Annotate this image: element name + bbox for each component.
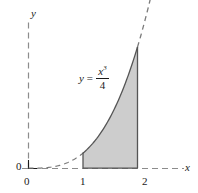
plot-canvas (0, 0, 198, 193)
equation-numerator-exponent: 3 (103, 64, 107, 72)
x-tick-label-1: 1 (80, 176, 86, 187)
equation-equals-sign: = (86, 73, 93, 84)
figure-container: y x 0 0 1 2 y = x3 4 (0, 0, 198, 193)
x-axis-label: x (185, 162, 190, 173)
x-axis-origin-label: 0 (24, 176, 30, 187)
x-tick-label-2: 2 (142, 176, 148, 187)
equation-denominator: 4 (98, 79, 108, 91)
equation-lhs: y (79, 73, 84, 84)
curve-dashed-left-segment (29, 153, 84, 168)
curve-equation-annotation: y = x3 4 (79, 66, 109, 91)
origin-corner-tick (29, 160, 38, 169)
y-axis-origin-label: 0 (16, 161, 22, 172)
equation-fraction: x3 4 (96, 66, 108, 91)
curve-dashed-right-segment (138, 0, 154, 47)
y-axis-label: y (31, 8, 36, 19)
equation-numerator: x3 (96, 66, 108, 78)
